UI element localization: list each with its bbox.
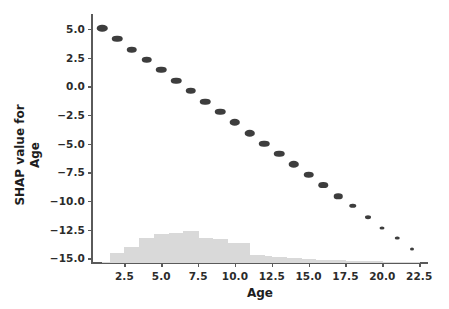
- left-spine: [91, 14, 93, 263]
- x-axis-tick-mark: [161, 263, 162, 267]
- y-axis-tick-label: 5.0: [66, 23, 85, 35]
- y-axis-tick-mark: [88, 144, 92, 145]
- scatter-point: [127, 46, 138, 53]
- scatter-point: [230, 119, 241, 126]
- x-axis-tick-mark: [198, 263, 199, 267]
- scatter-point: [274, 151, 285, 158]
- scatter-point: [112, 35, 123, 42]
- y-axis-tick-mark: [88, 230, 92, 231]
- x-axis-tick-label: 22.5: [406, 270, 432, 282]
- y-axis-tick-mark: [88, 201, 92, 202]
- x-axis-tick-label: 15.0: [295, 270, 321, 282]
- plot-axes: 5.02.50.0−2.5−5.0−7.5−10.0−12.5−15.0 2.5…: [92, 22, 428, 263]
- scatter-point: [303, 171, 314, 178]
- scatter-point: [289, 161, 300, 168]
- y-axis-label-line-1: SHAP value for: [13, 104, 27, 205]
- y-axis-tick-mark: [88, 58, 92, 59]
- y-axis-tick-label: 0.0: [66, 80, 85, 92]
- y-axis-tick-mark: [88, 29, 92, 30]
- y-axis-tick-label: 2.5: [66, 52, 85, 64]
- x-axis-tick-mark: [345, 263, 346, 267]
- x-axis-tick-mark: [419, 263, 420, 267]
- scatter-point: [259, 140, 270, 147]
- scatter-point: [171, 77, 182, 84]
- scatter-point: [365, 215, 371, 219]
- scatter-point: [395, 237, 400, 240]
- scatter-point: [141, 57, 152, 64]
- scatter-point: [380, 226, 385, 229]
- x-axis-tick-mark: [124, 263, 125, 267]
- scatter-point: [185, 88, 196, 95]
- scatter-point: [410, 248, 414, 251]
- x-axis-tick-mark: [309, 263, 310, 267]
- y-axis-tick-mark: [88, 172, 92, 173]
- y-axis-tick-mark: [88, 258, 92, 259]
- x-axis-tick-label: 20.0: [369, 270, 395, 282]
- scatter-point: [215, 108, 226, 115]
- y-axis-tick-label: −12.5: [50, 224, 85, 236]
- x-axis-tick-mark: [235, 263, 236, 267]
- x-axis-label: Age: [92, 286, 428, 300]
- y-axis-tick-label: −10.0: [50, 195, 85, 207]
- x-axis-tick-mark: [382, 263, 383, 267]
- y-axis-tick-label: −2.5: [57, 109, 85, 121]
- scatter-point: [97, 25, 108, 32]
- x-axis-tick-label: 17.5: [332, 270, 358, 282]
- y-axis-tick-label: −5.0: [57, 138, 85, 150]
- y-axis-tick-label: −15.0: [50, 252, 85, 264]
- x-axis-tick-label: 5.0: [152, 270, 171, 282]
- y-axis-tick-mark: [88, 86, 92, 87]
- scatter-point: [319, 182, 329, 188]
- x-axis-tick-label: 7.5: [189, 270, 208, 282]
- y-axis-label-line-2: Age: [28, 104, 43, 205]
- x-axis-tick-label: 12.5: [259, 270, 285, 282]
- scatter-point: [244, 130, 255, 137]
- scatter-point: [349, 203, 357, 208]
- scatter-point: [200, 99, 211, 106]
- x-axis-tick-label: 2.5: [115, 270, 134, 282]
- x-axis-tick-label: 10.0: [222, 270, 248, 282]
- scatter-point: [334, 194, 343, 199]
- scatter-point: [156, 66, 167, 73]
- x-axis-tick-mark: [272, 263, 273, 267]
- y-axis-tick-mark: [88, 115, 92, 116]
- y-axis-label: SHAP value for Age: [6, 0, 50, 309]
- shap-dependence-plot-figure: SHAP value for Age 5.02.50.0−2.5−5.0−7.5…: [0, 0, 449, 309]
- y-axis-tick-label: −7.5: [57, 166, 85, 178]
